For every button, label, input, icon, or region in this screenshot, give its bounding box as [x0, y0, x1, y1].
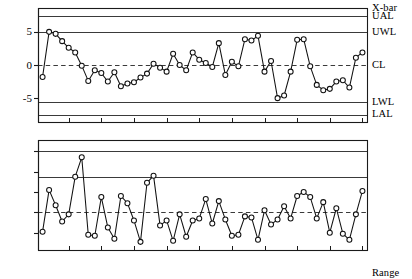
range-limit-label-range: Range: [372, 268, 399, 279]
xbar-chart: 5 0 -5 X-bar UAL UWL CL LWL LAL: [0, 0, 412, 132]
xbar-plot-area: [0, 0, 412, 132]
range-chart: 10 8 6 4 2 Range UAL UWL CL 5 10 15 20 2…: [0, 132, 412, 279]
xbar-ytick-label: 0: [27, 60, 33, 71]
xbar-limit-label-lwl: LWL: [372, 97, 394, 108]
xbar-ytick-label: -5: [23, 93, 32, 104]
xbar-limit-label-cl: CL: [372, 60, 386, 71]
xbar-limit-label-lal: LAL: [372, 109, 393, 120]
xbar-ytick-label: 5: [27, 26, 33, 37]
range-plot-area: [0, 132, 412, 279]
xbar-limit-label-uwl: UWL: [372, 27, 396, 38]
xbar-limit-label-ual: UAL: [372, 11, 394, 22]
control-chart-figure: 5 0 -5 X-bar UAL UWL CL LWL LAL 10 8 6 4…: [0, 0, 412, 279]
